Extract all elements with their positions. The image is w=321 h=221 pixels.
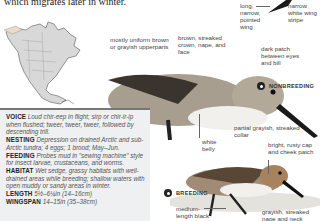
label-eye-patch: dark patch between eyes and bill [261, 45, 306, 66]
leader-line [256, 6, 270, 7]
leader-line [204, 208, 226, 209]
breeding-label: BREEDING [176, 190, 208, 196]
leader-line [268, 160, 269, 174]
info-wingspan: WINGSPAN 14–15in (35–38cm) [6, 198, 146, 206]
info-habitat: HABITAT Wet sedge, grassy habitats with … [6, 167, 146, 190]
plumage-icon [257, 82, 265, 90]
leader-line [199, 114, 200, 138]
intro-text: which migrates later in winter. [4, 0, 126, 7]
nonbreeding-badge: NONBREEDING [257, 82, 314, 90]
label-upperparts: mostly uniform brown or grayish upperpar… [110, 36, 170, 50]
label-collar: partial grayish, streaked collar [234, 124, 304, 138]
label-wing-stripe: narrow white wing stripe [288, 2, 318, 23]
info-voice: VOICE Loud chir-eep in flight; sirp or c… [6, 113, 146, 136]
nonbreeding-label: NONBREEDING [269, 83, 314, 89]
species-info-panel: VOICE Loud chir-eep in flight; sirp or c… [0, 108, 150, 221]
info-feeding: FEEDING Probes mud in "sewing machine" s… [6, 152, 146, 167]
breeding-badge: BREEDING [164, 189, 208, 197]
label-cap: bright, rusty cap and cheek patch [268, 141, 318, 155]
info-length: LENGTH 5½–6¼in (14–16cm) [6, 190, 146, 198]
label-crown: brown, streaked crown, nape, and face [178, 34, 228, 55]
info-nesting: NESTING Depression on drained Arctic and… [6, 136, 146, 151]
plumage-icon [164, 189, 172, 197]
label-nape: grayish, streaked nape and neck [262, 208, 321, 221]
range-map [2, 20, 88, 110]
label-belly: white belly [202, 138, 224, 152]
